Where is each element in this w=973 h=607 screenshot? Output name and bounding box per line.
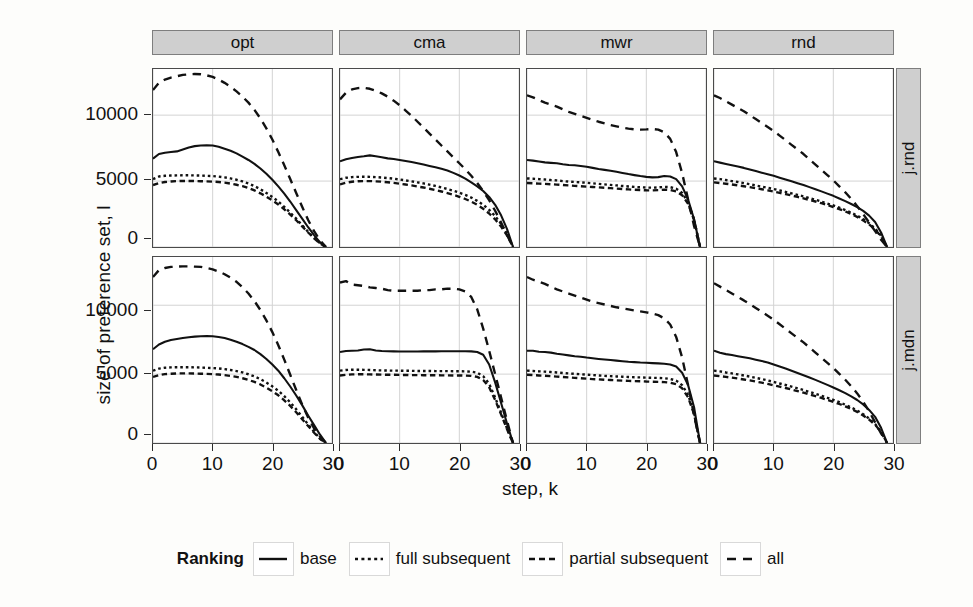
x-tickmark-30-panel3 — [894, 444, 895, 451]
x-tickmark-0-panel2 — [526, 444, 527, 451]
facet-col-strip-cma: cma — [339, 30, 520, 55]
x-tickmark-30-panel2 — [707, 444, 708, 451]
y-tickmark-0-row2 — [144, 434, 151, 435]
facet-row-strip-jmdn: j.mdn — [896, 256, 921, 444]
facet-row-strip-jrnd: j.rnd — [896, 68, 921, 248]
x-tick-label-0-panel0: 0 — [122, 453, 182, 475]
legend-key-all-line-icon — [720, 542, 761, 576]
panel-rnd-jrnd — [713, 68, 894, 248]
x-tickmark-0-panel0 — [152, 444, 153, 451]
x-tickmark-20-panel0 — [273, 444, 274, 451]
x-tickmark-20-panel1 — [460, 444, 461, 451]
y-tickmark-10000-row2 — [144, 310, 151, 311]
x-tick-label-10-panel1: 10 — [369, 453, 429, 475]
legend-label-all: all — [767, 549, 784, 569]
legend: Ranking base full subsequent partial sub… — [0, 542, 973, 576]
x-tick-label-30-panel3: 30 — [864, 453, 924, 475]
panel-mwr-jrnd — [526, 68, 707, 248]
panel-opt-jmdn — [152, 256, 333, 444]
facet-col-strip-opt: opt — [152, 30, 333, 55]
legend-label-full-subsequent: full subsequent — [396, 549, 510, 569]
x-axis-title: step, k — [152, 478, 908, 500]
y-tick-label-10000-row1: 10000 — [20, 103, 138, 125]
y-tick-label-5000-row2: 5000 — [20, 362, 138, 384]
x-tick-label-20-panel1: 20 — [430, 453, 490, 475]
x-tick-label-0-panel3: 0 — [683, 453, 743, 475]
x-tick-label-0-panel2: 0 — [496, 453, 556, 475]
x-tickmark-10-panel0 — [212, 444, 213, 451]
legend-key-partial-subsequent-line-icon — [522, 542, 563, 576]
y-tickmark-5000-row1 — [144, 179, 151, 180]
panel-mwr-jmdn — [526, 256, 707, 444]
x-tick-label-20-panel2: 20 — [617, 453, 677, 475]
x-tick-label-20-panel3: 20 — [804, 453, 864, 475]
facet-col-strip-mwr: mwr — [526, 30, 707, 55]
x-tick-label-10-panel3: 10 — [743, 453, 803, 475]
legend-key-full-subsequent-line-icon — [349, 542, 390, 576]
legend-item-partial-subsequent[interactable]: partial subsequent — [522, 542, 720, 576]
legend-label-base: base — [300, 549, 337, 569]
legend-item-base[interactable]: base — [253, 542, 349, 576]
x-tickmark-10-panel3 — [773, 444, 774, 451]
x-tick-label-10-panel2: 10 — [556, 453, 616, 475]
panel-rnd-jmdn — [713, 256, 894, 444]
y-tickmark-0-row1 — [144, 238, 151, 239]
x-tickmark-20-panel2 — [647, 444, 648, 451]
y-tick-label-5000-row1: 5000 — [20, 168, 138, 190]
x-tickmark-30-panel0 — [333, 444, 334, 451]
chart-root: size of preference set, l step, k opt cm… — [0, 0, 973, 607]
y-tick-label-0-row2: 0 — [20, 423, 138, 445]
x-tick-label-20-panel0: 20 — [243, 453, 303, 475]
panel-cma-jrnd — [339, 68, 520, 248]
y-tickmark-10000-row1 — [144, 114, 151, 115]
x-tickmark-10-panel2 — [586, 444, 587, 451]
facet-col-strip-rnd: rnd — [713, 30, 894, 55]
y-tick-label-0-row1: 0 — [20, 227, 138, 249]
x-tickmark-0-panel3 — [713, 444, 714, 451]
y-tickmark-5000-row2 — [144, 373, 151, 374]
legend-item-full-subsequent[interactable]: full subsequent — [349, 542, 522, 576]
x-tickmark-10-panel1 — [399, 444, 400, 451]
x-tickmark-0-panel1 — [339, 444, 340, 451]
x-tick-label-0-panel1: 0 — [309, 453, 369, 475]
legend-key-base-line-icon — [253, 542, 294, 576]
panel-opt-jrnd — [152, 68, 333, 248]
legend-label-partial-subsequent: partial subsequent — [569, 549, 708, 569]
panel-cma-jmdn — [339, 256, 520, 444]
legend-title: Ranking — [177, 549, 244, 569]
x-tickmark-30-panel1 — [520, 444, 521, 451]
y-tick-label-10000-row2: 10000 — [20, 299, 138, 321]
x-tickmark-20-panel3 — [834, 444, 835, 451]
legend-item-all[interactable]: all — [720, 542, 796, 576]
x-tick-label-10-panel0: 10 — [182, 453, 242, 475]
